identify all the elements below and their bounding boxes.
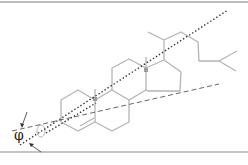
side-chain-terminal-methyl xyxy=(219,61,236,71)
ring-d xyxy=(146,60,181,91)
methyl-marker-c13 xyxy=(144,68,148,72)
cholesterol-diagram xyxy=(0,0,248,165)
ring-b xyxy=(95,90,129,131)
reference-dashed-line xyxy=(12,84,219,131)
side-chain xyxy=(164,32,237,61)
ring-c xyxy=(112,59,146,100)
angle-phi-label: φ xyxy=(14,128,24,142)
angle-arrow-lower xyxy=(31,145,41,152)
ring-a xyxy=(61,90,95,131)
side-chain-methyl-c21 xyxy=(148,32,164,40)
molecular-long-axis-secondary xyxy=(46,103,96,133)
double-bond xyxy=(80,118,94,126)
